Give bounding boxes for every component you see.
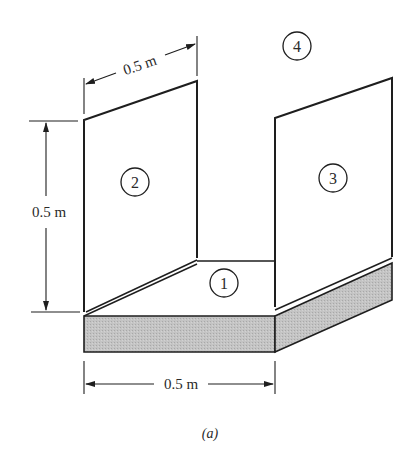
diagram-canvas: 0.5 m 0.5 m 0.5 m 4 2 3 1 (a) xyxy=(0,0,418,468)
surface-number: 1 xyxy=(220,275,228,292)
surface-number: 3 xyxy=(329,170,337,187)
top-dim-arrow-right xyxy=(165,44,195,55)
surface-label-3: 3 xyxy=(319,164,347,192)
surface-2-left-wall xyxy=(84,81,197,312)
top-width-dimension: 0.5 m xyxy=(84,36,197,114)
slab-side-face xyxy=(275,263,392,352)
top-dim-arrow-left xyxy=(86,73,116,84)
bottom-dim-label: 0.5 m xyxy=(164,376,199,392)
slab-rim-left xyxy=(84,264,197,316)
bottom-width-dimension: 0.5 m xyxy=(84,361,275,394)
base-slab xyxy=(84,258,392,352)
surface-1-floor xyxy=(86,260,275,312)
surface-label-1: 1 xyxy=(210,269,238,297)
figure-caption: (a) xyxy=(202,426,219,442)
enclosure-diagram: 0.5 m 0.5 m 0.5 m 4 2 3 1 (a) xyxy=(0,0,418,468)
left-dim-label: 0.5 m xyxy=(32,204,67,220)
surface-label-2: 2 xyxy=(121,168,149,196)
floor-left-edge xyxy=(86,260,197,312)
left-height-dimension: 0.5 m xyxy=(29,121,80,312)
left-wall-outline xyxy=(84,81,197,312)
surface-label-4: 4 xyxy=(283,32,311,60)
top-dim-label: 0.5 m xyxy=(121,52,159,78)
slab-front-face xyxy=(84,316,275,352)
surface-number: 2 xyxy=(131,174,139,191)
surface-number: 4 xyxy=(293,38,301,55)
